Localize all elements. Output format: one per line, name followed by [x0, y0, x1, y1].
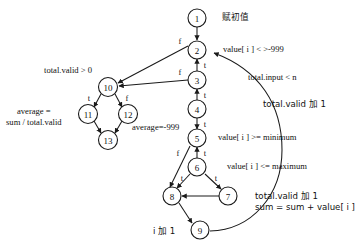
edge-6-to-7 — [205, 174, 221, 189]
node-13-label: 13 — [104, 136, 114, 146]
annotation-node2-condition: value[ i ] < >-999 — [223, 44, 284, 55]
annotation-average-neg999: average=-999 — [132, 122, 179, 133]
node-11: 11 — [79, 105, 98, 124]
node-6-label: 6 — [195, 163, 200, 173]
branch-label-10-true: t — [88, 93, 91, 103]
node-7-label: 7 — [226, 192, 231, 202]
node-12: 12 — [119, 105, 138, 124]
annotation-node1-note: 赋初值 — [222, 12, 249, 23]
node-3-label: 3 — [195, 76, 200, 86]
branch-label-3-true: t — [204, 90, 207, 100]
node-2: 2 — [188, 41, 206, 59]
edge-3-to-10 — [119, 80, 188, 86]
flowchart-figure: 1 2 3 4 5 6 7 8 — [0, 0, 361, 251]
annotation-valid-increment-1: total.valid 加 1 — [263, 99, 326, 110]
annotation-valid-increment-2: total.valid 加 1 sum = sum + value[ i ] — [255, 191, 355, 213]
edge-8-to-9 — [179, 203, 192, 223]
node-3: 3 — [188, 71, 206, 89]
node-4: 4 — [188, 100, 206, 118]
annotation-maximum-condition: value[ i ] <= maximum — [227, 161, 307, 172]
node-11-label: 11 — [84, 110, 93, 120]
edge-11-to-13 — [94, 121, 101, 133]
branch-label-5-true: t — [204, 148, 207, 158]
node-6: 6 — [188, 158, 206, 176]
branch-label-5-false: f — [177, 148, 180, 158]
branch-label-6-false: t — [215, 173, 218, 183]
node-8: 8 — [163, 187, 181, 205]
edge-2-to-10 — [118, 46, 188, 83]
branch-label-3-false: f — [179, 67, 182, 77]
node-12-label: 12 — [124, 110, 133, 120]
annotation-minimum-condition: value[ i ] >= minimum — [218, 132, 296, 143]
annotation-node10-condition: total.valid > 0 — [44, 65, 92, 76]
node-8-label: 8 — [170, 192, 175, 202]
branch-label-10-false: f — [126, 93, 129, 103]
edge-10-to-11 — [94, 94, 101, 107]
annotation-input-condition: total.input < n — [248, 72, 297, 83]
node-10: 10 — [99, 78, 118, 97]
edge-12-to-13 — [115, 121, 122, 133]
node-1: 1 — [188, 9, 206, 27]
node-4-label: 4 — [195, 105, 200, 115]
branch-label-4-true: t — [204, 119, 207, 129]
node-9: 9 — [191, 221, 209, 239]
node-10-label: 10 — [104, 83, 114, 93]
node-1-label: 1 — [195, 14, 200, 24]
node-9-label: 9 — [198, 226, 203, 236]
node-5: 5 — [188, 129, 206, 147]
annotation-average-formula: average = sum / total.valid — [6, 106, 62, 128]
branch-label-2-true: t — [204, 60, 207, 70]
annotation-i-increment: i 加 1 — [153, 226, 175, 237]
node-13: 13 — [99, 131, 118, 150]
branch-label-2-false: f — [179, 36, 182, 46]
edge-10-to-12 — [115, 94, 122, 107]
node-5-label: 5 — [195, 134, 200, 144]
node-2-label: 2 — [195, 46, 200, 56]
node-7: 7 — [219, 187, 237, 205]
edge-6-to-8 — [177, 174, 190, 188]
